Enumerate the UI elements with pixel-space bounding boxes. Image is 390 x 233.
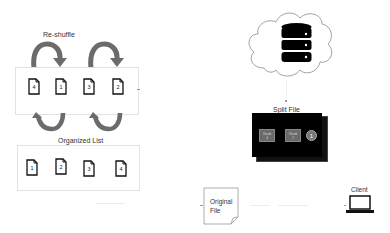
connector-line xyxy=(278,205,308,206)
connector-dot xyxy=(285,100,287,102)
curved-arrow-up-icon xyxy=(89,112,123,132)
document-icon: 3 xyxy=(83,160,95,177)
original-file-label: Original xyxy=(210,198,232,205)
database-icon xyxy=(281,23,312,64)
document-icon: 3 xyxy=(83,78,95,95)
document-icon: 2 xyxy=(112,78,124,95)
curved-arrow-down-icon xyxy=(85,40,125,68)
connector-tick xyxy=(344,205,346,206)
chunk-block: Chunk4 xyxy=(259,129,275,142)
connector-line xyxy=(95,203,125,204)
document-icon: 4 xyxy=(28,78,40,95)
connector-tick xyxy=(137,89,140,90)
chunk-block: Chunk2 xyxy=(285,129,301,142)
connector-tick xyxy=(200,205,203,206)
document-icon: 1 xyxy=(55,78,67,95)
original-file-label-2: File xyxy=(210,207,220,214)
reshuffle-label: Re-shuffle xyxy=(43,31,75,38)
curved-arrow-down-icon xyxy=(28,40,68,68)
connector-line xyxy=(286,80,287,98)
curved-arrow-up-icon xyxy=(32,112,66,132)
split-file-label: Split File xyxy=(273,106,300,113)
document-icon: 4 xyxy=(115,160,127,177)
document-icon: 2 xyxy=(55,158,67,175)
document-icon: 1 xyxy=(26,159,38,176)
chunk-number-circle: 1 xyxy=(306,130,317,141)
connector-line xyxy=(250,205,270,206)
original-file-icon xyxy=(203,187,239,225)
organized-list-label: Organized List xyxy=(58,137,103,144)
laptop-icon xyxy=(346,195,374,214)
client-label: Client xyxy=(351,186,368,193)
